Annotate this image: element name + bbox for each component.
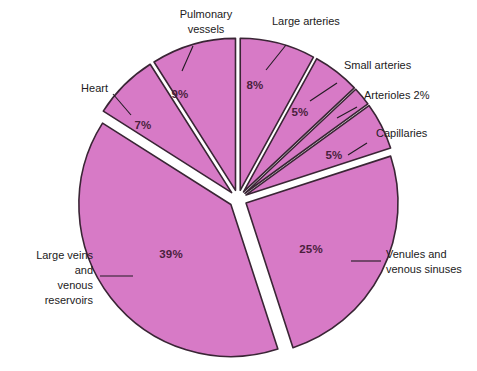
- category-label-large-veins-line1: Large veins: [36, 249, 93, 261]
- category-label-large-veins-line2: and: [75, 264, 93, 276]
- category-label-large-veins-line3: venous: [58, 279, 94, 291]
- category-label-small-arteries: Small arteries: [344, 59, 412, 71]
- category-label-venules-line1: Venules and: [386, 248, 447, 260]
- category-label-venules-line2: venous sinuses: [386, 263, 462, 275]
- category-label-capillaries: Capillaries: [376, 127, 428, 139]
- category-label-pulmonary-vessels-line2: vessels: [188, 23, 225, 35]
- pie-chart-figure: 9% 8% 5% 5% 7% 39% 25% Pulmonary vessels…: [0, 0, 477, 371]
- value-label-pulmonary-vessels: 9%: [171, 88, 188, 100]
- category-label-large-veins-line4: reservoirs: [45, 294, 94, 306]
- category-label-heart: Heart: [81, 82, 108, 94]
- value-label-large-veins: 39%: [159, 248, 183, 260]
- category-label-pulmonary-vessels-line1: Pulmonary: [180, 8, 233, 20]
- value-label-heart: 7%: [134, 119, 151, 131]
- value-label-large-arteries: 8%: [246, 79, 263, 91]
- category-label-large-arteries: Large arteries: [272, 15, 340, 27]
- value-label-capillaries: 5%: [325, 149, 342, 161]
- category-label-arterioles: Arterioles 2%: [364, 89, 430, 101]
- value-label-venules: 25%: [299, 243, 323, 255]
- value-label-small-arteries: 5%: [291, 106, 308, 118]
- pie-chart-svg: 9% 8% 5% 5% 7% 39% 25% Pulmonary vessels…: [0, 0, 477, 371]
